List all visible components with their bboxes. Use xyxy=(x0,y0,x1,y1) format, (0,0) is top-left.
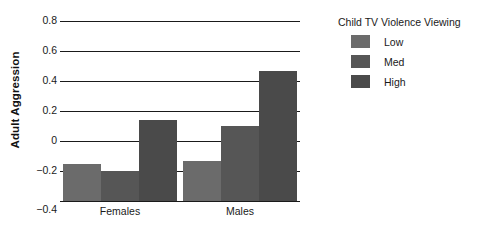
bar-females-low xyxy=(63,164,101,202)
legend-item-med: Med xyxy=(338,55,488,68)
bar-females-high xyxy=(139,120,177,201)
category-label-males: Males xyxy=(226,205,254,217)
legend-label-low: Low xyxy=(384,36,403,48)
legend-label-high: High xyxy=(384,76,406,88)
legend: Child TV Violence Viewing LowMedHigh xyxy=(338,16,488,95)
y-axis-tick-label: −0.4 xyxy=(36,204,57,215)
legend-swatch-high xyxy=(351,75,370,88)
legend-item-low: Low xyxy=(338,35,488,48)
legend-swatch-med xyxy=(351,55,370,68)
y-axis-title-label: Adult Aggression xyxy=(8,51,20,148)
y-axis-tick-label: 0.2 xyxy=(42,105,57,116)
legend-swatch-low xyxy=(351,35,370,48)
legend-item-high: High xyxy=(338,75,488,88)
category-label-females: Females xyxy=(100,205,140,217)
legend-rows: LowMedHigh xyxy=(338,35,488,88)
bar-males-high xyxy=(259,71,297,202)
y-axis-tick-label: 0.4 xyxy=(42,75,57,86)
y-axis-tick-label: 0.8 xyxy=(42,15,57,26)
y-axis-title: Adult Aggression xyxy=(2,0,26,200)
legend-title: Child TV Violence Viewing xyxy=(338,16,488,28)
legend-label-med: Med xyxy=(384,56,404,68)
chart-figure: Adult Aggression 0.80.60.40.20−0.2−0.4 F… xyxy=(0,0,491,242)
y-axis-tick-label: 0.6 xyxy=(42,45,57,56)
bar-males-med xyxy=(221,126,259,201)
y-axis-tick-label: −0.2 xyxy=(36,165,57,176)
gridline: 0.8 xyxy=(60,21,300,22)
gridline: 0.6 xyxy=(60,51,300,52)
y-axis-tick-label: 0 xyxy=(51,135,57,146)
bar-females-med xyxy=(101,171,139,201)
gridline: −0.4 xyxy=(60,201,300,202)
plot-area: 0.80.60.40.20−0.2−0.4 FemalesMales xyxy=(60,21,300,201)
bar-males-low xyxy=(183,161,221,202)
